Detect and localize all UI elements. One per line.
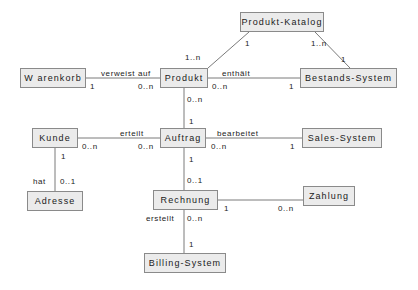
class-node-zahlung[interactable]: Zahlung bbox=[303, 186, 355, 206]
multiplicity-auftrag-up-mult: 1 bbox=[189, 117, 194, 126]
association-label-bearbeitet-label: bearbeitet bbox=[217, 129, 259, 138]
association-label-erteilt-label: erteilt bbox=[120, 129, 144, 138]
association-label-erstellt-label: erstellt bbox=[146, 214, 174, 223]
multiplicity-warenkorb-mult: 1 bbox=[90, 82, 95, 91]
class-node-produkt[interactable]: Produkt bbox=[160, 68, 208, 88]
multiplicity-auftrag-down-mult: 1 bbox=[189, 155, 194, 164]
multiplicity-produkt-up-mult: 1..n bbox=[185, 53, 201, 62]
multiplicity-sales-left-mult: 1 bbox=[290, 142, 295, 151]
class-node-rechnung[interactable]: Rechnung bbox=[153, 190, 218, 210]
multiplicity-rechnung-right-mult: 1 bbox=[224, 204, 229, 213]
multiplicity-rechnung-up-mult: 0..1 bbox=[187, 176, 203, 185]
multiplicity-rechnung-down-mult: 0..n bbox=[187, 214, 203, 223]
class-node-auftrag[interactable]: Auftrag bbox=[160, 128, 206, 148]
multiplicity-katalog-right-mult: 1..n bbox=[311, 39, 327, 48]
multiplicity-zahlung-left-mult: 0..n bbox=[278, 204, 294, 213]
class-node-kunde[interactable]: Kunde bbox=[32, 128, 78, 148]
class-node-warenkorb[interactable]: W arenkorb bbox=[20, 68, 86, 88]
association-label-hat-label: hat bbox=[33, 177, 46, 186]
association-label-verweist-label: verweist auf bbox=[101, 69, 151, 78]
multiplicity-kunde-down-mult: 1 bbox=[61, 152, 66, 161]
association-label-enthaelt-label: enthält bbox=[222, 69, 250, 78]
multiplicity-adresse-up-mult: 0..1 bbox=[60, 177, 76, 186]
class-node-billing-system[interactable]: Billing-System bbox=[144, 253, 226, 273]
class-node-sales-system[interactable]: Sales-System bbox=[302, 128, 382, 148]
multiplicity-bestands-left-mult: 1 bbox=[289, 82, 294, 91]
multiplicity-bestands-up-mult: 1 bbox=[341, 55, 346, 64]
uml-class-diagram: Produkt-KatalogW arenkorbProduktBestands… bbox=[0, 0, 418, 290]
multiplicity-auftrag-left-mult: 0..n bbox=[138, 142, 154, 151]
multiplicity-produkt-down-mult: 0..n bbox=[187, 95, 203, 104]
multiplicity-produkt-right-mult: 0..n bbox=[212, 82, 228, 91]
class-node-produkt-katalog[interactable]: Produkt-Katalog bbox=[240, 12, 324, 32]
association-line-katalog-produkt bbox=[208, 32, 249, 68]
class-node-bestands-system[interactable]: Bestands-System bbox=[300, 68, 397, 88]
multiplicity-kunde-right-mult: 0..n bbox=[82, 142, 98, 151]
multiplicity-produkt-left-mult: 0..n bbox=[138, 82, 154, 91]
class-node-adresse[interactable]: Adresse bbox=[27, 191, 83, 211]
multiplicity-billing-up-mult: 1 bbox=[189, 240, 194, 249]
multiplicity-katalog-left-mult: 1 bbox=[245, 39, 250, 48]
multiplicity-auftrag-right-mult: 0..n bbox=[211, 142, 227, 151]
